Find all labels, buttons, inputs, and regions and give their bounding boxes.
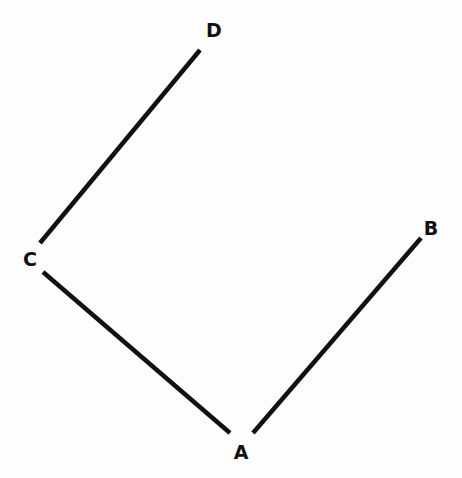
edge-a-b [253, 238, 421, 433]
node-label-d: D [206, 19, 222, 41]
node-label-c: C [23, 248, 37, 270]
diagram-canvas: ABCD [0, 0, 462, 478]
edges-group [40, 50, 421, 433]
graph-svg: ABCD [0, 0, 462, 478]
node-label-b: B [424, 217, 438, 239]
node-label-a: A [234, 441, 249, 463]
edge-c-a [43, 272, 230, 433]
edge-c-d [40, 50, 200, 243]
nodes-group: ABCD [23, 19, 438, 463]
